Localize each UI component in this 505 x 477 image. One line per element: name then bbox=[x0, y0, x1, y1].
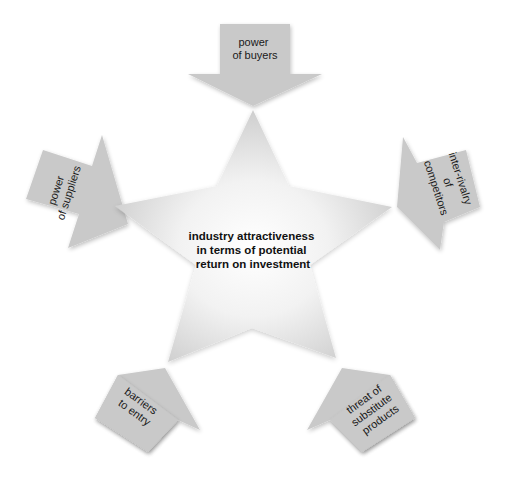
force-arrow-inter-rivalry: inter-rivalry of competitors bbox=[397, 137, 480, 250]
force-arrow-barriers-to-entry: barriers to entry bbox=[93, 355, 200, 452]
center-star: industry attractiveness in terms of pote… bbox=[115, 110, 392, 362]
center-label: industry attractiveness in terms of pote… bbox=[188, 230, 317, 270]
right-arrow-icon bbox=[26, 135, 128, 248]
five-forces-diagram: power of buyers power of suppliers inter… bbox=[0, 0, 505, 477]
force-arrow-threat-of-substitutes: threat of substitute products bbox=[307, 355, 415, 452]
force-arrow-power-of-suppliers: power of suppliers bbox=[26, 135, 128, 248]
force-arrow-power-of-buyers: power of buyers bbox=[188, 24, 322, 106]
force-label: power of buyers bbox=[232, 36, 278, 61]
